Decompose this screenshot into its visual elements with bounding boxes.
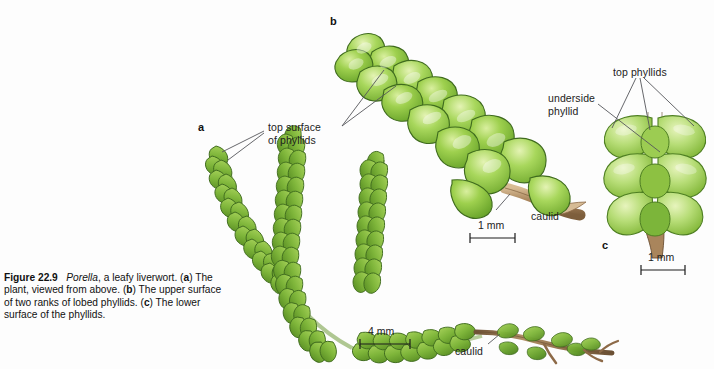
caption-genus: Porella <box>66 272 98 283</box>
label-caulid-panel-b: caulid <box>531 210 559 223</box>
scale-bar-marks <box>360 233 685 349</box>
panel-c-underside <box>604 112 706 258</box>
label-underside-line2: phyllid <box>548 105 578 118</box>
caption-text-1: , a leafy liverwort. ( <box>98 272 184 283</box>
label-top-phyllids: top phyllids <box>613 66 667 79</box>
figure-caption: Figure 22.9 Porella, a leafy liverwort. … <box>4 272 222 322</box>
scale-label-panel-b: 1 mm <box>478 219 504 231</box>
label-underside-line1: underside <box>548 92 595 105</box>
panel-letter-c: c <box>602 239 608 251</box>
scale-label-panel-c: 1 mm <box>648 251 674 263</box>
label-caulid-panel-a: caulid <box>455 345 483 358</box>
label-top-surface-line1: top surface <box>268 121 321 134</box>
panel-letter-a: a <box>198 121 204 133</box>
panel-a-plant <box>202 125 618 365</box>
figure-panel: a b c top surface of phyllids top phylli… <box>0 0 714 369</box>
label-top-surface-line2: of phyllids <box>268 134 316 147</box>
caption-figure-number: Figure 22.9 <box>4 272 58 283</box>
panel-letter-b: b <box>330 15 337 27</box>
scale-label-panel-a: 4 mm <box>368 325 394 337</box>
